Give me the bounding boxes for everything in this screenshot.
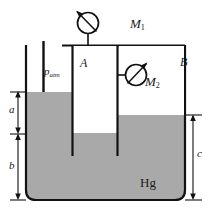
dimension-b-label: b [9,160,15,171]
mercury-left-region [26,92,73,200]
gauge-m1-label: M1 [130,17,145,32]
dimension-b-arrow-bottom [15,194,21,201]
diagram-canvas [0,0,211,213]
mercury-chamber-a [73,133,117,200]
dimension-a-label: a [9,104,15,115]
dimension-a-arrow-bottom [15,128,21,135]
chamber-a-label: A [80,57,87,69]
mercury-label: Hg [140,176,156,189]
gauge-m1[interactable] [76,11,98,45]
dimension-c-label: c [197,148,202,159]
atmospheric-pressure-label: patm [44,66,60,78]
manometer-diagram: M1 M2 A B patm a b c Hg [0,0,211,213]
gauge-m2-label: M2 [145,75,160,90]
dimension-c-arrow-bottom [190,194,196,201]
chamber-b-label: B [180,56,187,68]
